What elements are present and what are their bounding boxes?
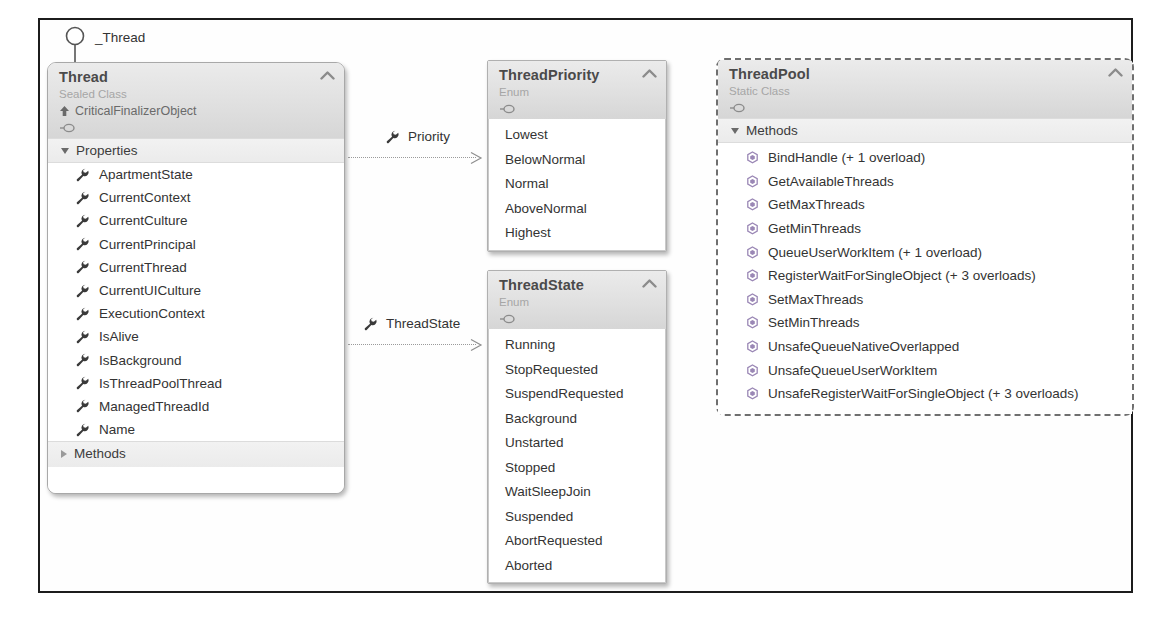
list-item[interactable]: SetMaxThreads: [718, 288, 1132, 312]
list-item[interactable]: BelowNormal: [489, 148, 665, 173]
member-label: CurrentPrincipal: [99, 233, 196, 256]
method-cube-icon: [746, 340, 759, 353]
property-wrench-icon: [76, 214, 90, 228]
compartment-header-properties[interactable]: Properties: [48, 138, 344, 163]
method-cube-icon: [746, 364, 759, 377]
list-item[interactable]: IsBackground: [48, 349, 344, 372]
method-cube-icon: [746, 222, 759, 235]
list-item[interactable]: AboveNormal: [489, 197, 665, 222]
class-box-threadpool[interactable]: ThreadPool Static Class Methods BindHand…: [716, 58, 1134, 416]
member-label: CurrentContext: [99, 186, 191, 209]
list-item[interactable]: Name: [48, 418, 344, 441]
property-wrench-icon: [76, 191, 90, 205]
member-label: UnsafeQueueNativeOverlapped: [768, 335, 959, 358]
association-line: [348, 157, 476, 158]
member-label: SetMaxThreads: [768, 288, 863, 311]
list-item[interactable]: Stopped: [489, 456, 665, 481]
list-item[interactable]: Highest: [489, 221, 665, 246]
list-item[interactable]: AbortRequested: [489, 529, 665, 554]
list-item[interactable]: RegisterWaitForSingleObject (+ 3 overloa…: [718, 264, 1132, 288]
enum-header-threadpriority: ThreadPriority Enum: [488, 61, 666, 119]
member-label: IsThreadPoolThread: [99, 372, 222, 395]
enum-title: ThreadState: [499, 277, 656, 294]
member-label: CurrentCulture: [99, 209, 188, 232]
property-wrench-icon: [364, 317, 378, 331]
list-item[interactable]: UnsafeRegisterWaitForSingleObject (+ 3 o…: [718, 382, 1132, 406]
list-item[interactable]: SuspendRequested: [489, 382, 665, 407]
compartment-label: Methods: [746, 123, 798, 138]
list-item[interactable]: Aborted: [489, 554, 665, 579]
member-label: GetAvailableThreads: [768, 170, 894, 193]
triangle-right-icon[interactable]: [61, 450, 67, 458]
list-item[interactable]: SetMinThreads: [718, 311, 1132, 335]
list-item[interactable]: Unstarted: [489, 431, 665, 456]
property-wrench-icon: [76, 284, 90, 298]
list-item[interactable]: ApartmentState: [48, 163, 344, 186]
list-item[interactable]: ManagedThreadId: [48, 395, 344, 418]
inheritance-arrow-icon: [59, 105, 70, 117]
chevron-up-icon[interactable]: [642, 68, 657, 80]
list-item[interactable]: GetAvailableThreads: [718, 170, 1132, 194]
member-label: BindHandle (+ 1 overload): [768, 146, 925, 169]
chevron-up-icon[interactable]: [642, 278, 657, 290]
enum-stereotype: Enum: [499, 85, 656, 100]
chevron-up-icon[interactable]: [320, 70, 335, 82]
triangle-down-icon[interactable]: [61, 148, 69, 154]
method-cube-icon: [746, 293, 759, 306]
list-item[interactable]: Lowest: [489, 123, 665, 148]
list-item[interactable]: CurrentUICulture: [48, 279, 344, 302]
list-item[interactable]: Running: [489, 333, 665, 358]
list-item[interactable]: CurrentPrincipal: [48, 233, 344, 256]
list-item[interactable]: BindHandle (+ 1 overload): [718, 146, 1132, 170]
list-item[interactable]: ExecutionContext: [48, 302, 344, 325]
class-stereotype: Static Class: [729, 84, 1122, 99]
list-item[interactable]: StopRequested: [489, 358, 665, 383]
class-box-thread[interactable]: Thread Sealed Class CriticalFinalizerObj…: [47, 62, 345, 494]
compartment-header-methods[interactable]: Methods: [48, 441, 344, 467]
list-item[interactable]: IsThreadPoolThread: [48, 372, 344, 395]
compartment-header-methods[interactable]: Methods: [718, 118, 1132, 143]
property-wrench-icon: [386, 130, 400, 144]
list-item[interactable]: CurrentThread: [48, 256, 344, 279]
method-cube-icon: [746, 387, 759, 400]
chevron-up-icon[interactable]: [1108, 67, 1123, 79]
association-label-priority: Priority: [386, 129, 450, 144]
method-cube-icon: [746, 151, 759, 164]
member-label: ManagedThreadId: [99, 395, 209, 418]
interface-lollipop-icon: [499, 101, 656, 114]
enum-box-threadpriority[interactable]: ThreadPriority Enum Lowest BelowNormal N…: [487, 60, 667, 252]
class-title: Thread: [59, 69, 334, 86]
list-item[interactable]: Normal: [489, 172, 665, 197]
triangle-down-icon[interactable]: [731, 128, 739, 134]
property-wrench-icon: [76, 168, 90, 182]
list-item[interactable]: Background: [489, 407, 665, 432]
interface-lollipop-label: _Thread: [95, 30, 145, 45]
list-item[interactable]: QueueUserWorkItem (+ 1 overload): [718, 240, 1132, 264]
interface-lollipop-icon: [499, 311, 656, 324]
property-wrench-icon: [76, 260, 90, 274]
member-list-threadpool-methods: BindHandle (+ 1 overload) GetAvailableTh…: [718, 143, 1132, 414]
member-label: CurrentUICulture: [99, 279, 201, 302]
list-item[interactable]: WaitSleepJoin: [489, 480, 665, 505]
enum-box-threadstate[interactable]: ThreadState Enum Running StopRequested S…: [487, 270, 667, 584]
list-item[interactable]: UnsafeQueueUserWorkItem: [718, 358, 1132, 382]
property-wrench-icon: [76, 307, 90, 321]
compartment-label: Methods: [74, 446, 126, 461]
list-item[interactable]: CurrentCulture: [48, 209, 344, 232]
enum-member-list-threadstate: Running StopRequested SuspendRequested B…: [488, 329, 666, 583]
list-item[interactable]: Suspended: [489, 505, 665, 530]
list-item[interactable]: UnsafeQueueNativeOverlapped: [718, 335, 1132, 359]
list-item[interactable]: GetMinThreads: [718, 217, 1132, 241]
list-item[interactable]: CurrentContext: [48, 186, 344, 209]
member-label: UnsafeQueueUserWorkItem: [768, 359, 937, 382]
list-item[interactable]: GetMaxThreads: [718, 193, 1132, 217]
enum-title: ThreadPriority: [499, 67, 656, 84]
method-cube-icon: [746, 316, 759, 329]
method-cube-icon: [746, 269, 759, 282]
interface-lollipop-icon: [729, 100, 1122, 113]
association-label-threadstate: ThreadState: [364, 316, 460, 331]
method-cube-icon: [746, 198, 759, 211]
class-box-footer: [48, 467, 344, 493]
compartment-label: Properties: [76, 143, 138, 158]
list-item[interactable]: IsAlive: [48, 325, 344, 348]
